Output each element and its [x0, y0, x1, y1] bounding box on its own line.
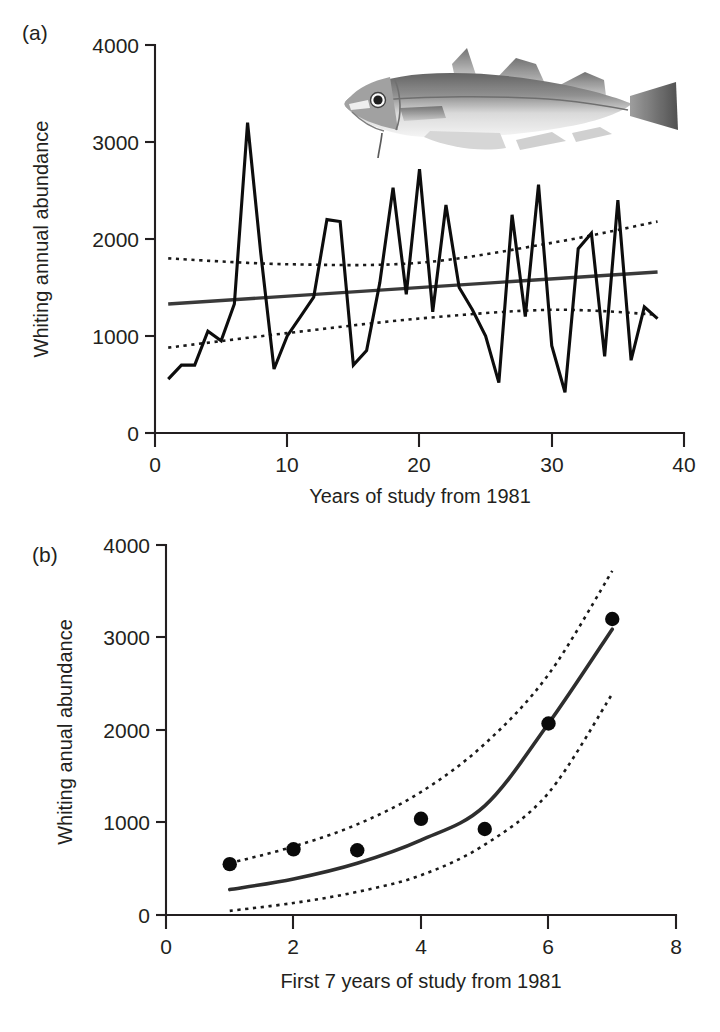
- x-tick-a-30: 30: [540, 453, 563, 476]
- y-tick-b-2000: 2000: [103, 719, 150, 742]
- x-ticks-a: 0 10 20 30 40: [149, 433, 696, 476]
- y-tick-a-2000: 2000: [92, 228, 139, 251]
- x-tick-a-0: 0: [149, 453, 161, 476]
- y-axis-title-b: Whiting anual abundance: [54, 619, 76, 845]
- y-tick-a-3000: 3000: [92, 131, 139, 154]
- data-point: [478, 822, 492, 836]
- y-tick-b-0: 0: [138, 904, 150, 927]
- x-tick-a-40: 40: [672, 453, 695, 476]
- y-tick-b-1000: 1000: [103, 811, 150, 834]
- figure-whiting-abundance: (a): [0, 0, 720, 1032]
- x-tick-b-8: 8: [670, 935, 682, 958]
- y-axis-title-a: Whiting annual abundance: [30, 121, 52, 358]
- panel-b: (b) 4000 3000 2000 1000 0: [0, 512, 720, 1032]
- x-tick-b-2: 2: [287, 935, 299, 958]
- y-tick-a-1000: 1000: [92, 325, 139, 348]
- x-tick-b-4: 4: [415, 935, 427, 958]
- x-tick-a-10: 10: [275, 453, 298, 476]
- confidence-lower-line-a: [168, 310, 657, 348]
- chart-b-svg: (b) 4000 3000 2000 1000 0: [0, 512, 720, 1032]
- chart-a-svg: (a): [0, 0, 720, 530]
- x-tick-b-6: 6: [542, 935, 554, 958]
- data-points-group-b: [223, 612, 620, 872]
- trend-line-a: [168, 272, 657, 304]
- whiting-fish-illustration: [345, 48, 679, 158]
- data-point: [541, 716, 555, 730]
- x-tick-b-0: 0: [160, 935, 172, 958]
- x-axis-title-a: Years of study from 1981: [309, 485, 531, 507]
- panel-a-label: (a): [22, 21, 48, 44]
- data-point: [286, 842, 300, 856]
- y-ticks-b: 4000 3000 2000 1000 0: [103, 534, 166, 927]
- x-tick-a-20: 20: [407, 453, 430, 476]
- panel-b-label: (b): [32, 543, 58, 566]
- data-point: [414, 812, 428, 826]
- panel-a: (a): [0, 0, 720, 530]
- abundance-series-line-a: [168, 123, 657, 393]
- y-tick-a-4000: 4000: [92, 34, 139, 57]
- x-axis-title-b: First 7 years of study from 1981: [280, 970, 561, 992]
- x-ticks-b: 0 2 4 6 8: [160, 915, 682, 958]
- data-point: [223, 857, 237, 871]
- y-tick-b-4000: 4000: [103, 534, 150, 557]
- data-point: [350, 843, 364, 857]
- y-ticks-a: 4000 3000 2000 1000 0: [92, 34, 155, 445]
- data-point: [605, 612, 619, 626]
- y-tick-b-3000: 3000: [103, 626, 150, 649]
- y-tick-a-0: 0: [127, 422, 139, 445]
